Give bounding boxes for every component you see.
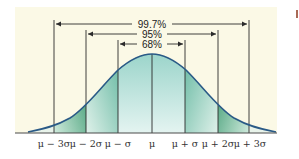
axis-label-mu-plus-3sigma: μ + 3σ xyxy=(234,138,267,149)
axis-label-mu-plus-sigma: μ + σ xyxy=(172,138,199,149)
axis-label-mu-minus-3sigma: μ − 3σ xyxy=(38,138,71,149)
corner-mark xyxy=(296,10,298,18)
axis-label-mu-minus-2sigma: μ − 2σ xyxy=(70,138,103,149)
axis-label-mu: μ xyxy=(149,138,155,149)
axis-labels: μ − 3σ μ − 2σ μ − σ μ μ + σ μ + 2σ μ + 3… xyxy=(38,138,267,149)
axis-label-mu-plus-2sigma: μ + 2σ xyxy=(202,138,235,149)
axis-label-mu-minus-sigma: μ − σ xyxy=(105,138,132,149)
normal-distribution-diagram: 99.7% 95% 68% μ − 3σ μ − 2σ μ − σ μ μ + … xyxy=(0,0,299,159)
bracket-label-68: 68% xyxy=(142,39,162,50)
